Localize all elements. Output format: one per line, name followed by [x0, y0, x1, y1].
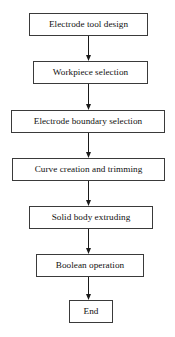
flow-node-label: End: [82, 307, 101, 316]
flow-arrow-n2-to-n3: [83, 84, 94, 110]
flow-node-label: Workpiece selection: [51, 68, 130, 77]
flow-node-label: Curve creation and trimming: [33, 165, 145, 174]
flow-node-n7[interactable]: End: [69, 300, 113, 323]
flow-arrow-n5-to-n6: [83, 229, 94, 254]
flow-node-n3[interactable]: Electrode boundary selection: [11, 110, 165, 133]
flow-arrow-n6-to-n7: [83, 277, 94, 300]
flow-arrow-n4-to-n5: [83, 181, 94, 206]
flow-node-label: Solid body extruding: [50, 213, 133, 222]
flow-node-n2[interactable]: Workpiece selection: [33, 61, 148, 84]
flowchart-canvas: Electrode tool designWorkpiece selection…: [0, 0, 175, 337]
flow-node-label: Electrode tool design: [47, 20, 130, 29]
flow-node-n5[interactable]: Solid body extruding: [29, 206, 153, 229]
flow-node-label: Electrode boundary selection: [32, 117, 145, 126]
flow-node-label: Boolean operation: [54, 261, 126, 270]
flow-arrow-n1-to-n2: [83, 36, 94, 61]
flow-node-n6[interactable]: Boolean operation: [36, 254, 144, 277]
flow-node-n1[interactable]: Electrode tool design: [29, 13, 148, 36]
flow-arrow-n3-to-n4: [83, 133, 94, 158]
flow-node-n4[interactable]: Curve creation and trimming: [12, 158, 165, 181]
